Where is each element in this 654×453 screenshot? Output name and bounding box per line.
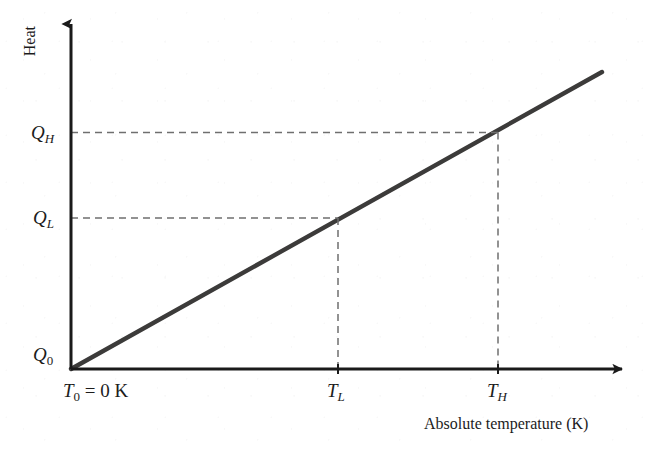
ql-subscript: L	[47, 216, 54, 231]
tl-subscript: L	[338, 389, 345, 404]
data-line-heat-vs-temperature	[71, 72, 602, 369]
qh-subscript: H	[45, 131, 54, 146]
th-symbol: T	[487, 380, 498, 401]
x-tick-label-tl: TL	[327, 381, 345, 400]
ql-symbol: Q	[33, 207, 47, 228]
q0-symbol: Q	[33, 344, 47, 365]
y-tick-label-q0: Q0	[33, 345, 53, 364]
t0-subscript: 0	[74, 389, 81, 404]
y-tick-label-ql: QL	[33, 208, 54, 227]
qh-symbol: Q	[31, 122, 45, 143]
t0-value: = 0 K	[80, 380, 128, 401]
x-tick-label-t0: T0 = 0 K	[63, 381, 128, 400]
x-axis-title: Absolute temperature (K)	[424, 416, 588, 432]
t0-symbol: T	[63, 380, 74, 401]
y-tick-label-qh: QH	[31, 123, 54, 142]
th-subscript: H	[498, 389, 507, 404]
q0-subscript: 0	[47, 353, 54, 368]
x-tick-label-th: TH	[487, 381, 507, 400]
heat-vs-absolute-temperature-figure: Heat Absolute temperature (K) QH QL Q0 T…	[0, 0, 654, 453]
tl-symbol: T	[327, 380, 338, 401]
y-axis-title: Heat	[22, 26, 38, 56]
